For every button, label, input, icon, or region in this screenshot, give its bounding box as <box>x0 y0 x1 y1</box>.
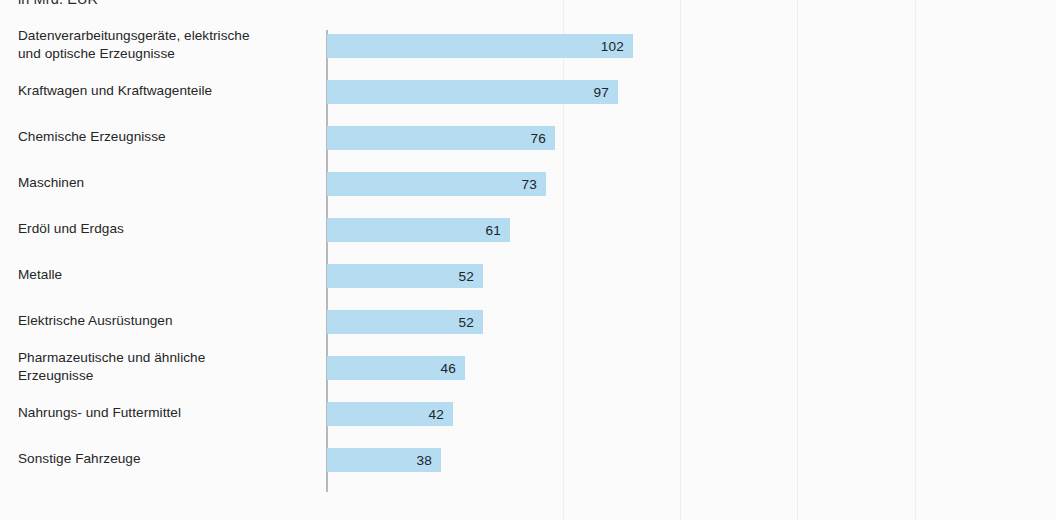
bar-row: Sonstige Fahrzeuge38 <box>0 444 1056 490</box>
bar-value-label: 97 <box>593 85 609 100</box>
category-label-line: Datenverarbeitungsgeräte, elektrische <box>18 27 318 45</box>
bar-value-label: 102 <box>601 39 624 54</box>
horizontal-bar-chart: Datenverarbeitungsgeräte, elektrischeund… <box>0 0 1056 520</box>
category-label-line: Sonstige Fahrzeuge <box>18 450 318 468</box>
bar-row: Nahrungs- und Futtermittel42 <box>0 398 1056 444</box>
category-label: Nahrungs- und Futtermittel <box>18 404 318 422</box>
category-label: Pharmazeutische und ähnlicheErzeugnisse <box>18 349 318 384</box>
bar[interactable]: 52 <box>327 310 483 334</box>
bar-value-label: 42 <box>428 407 444 422</box>
bar-value-label: 73 <box>521 177 537 192</box>
bar[interactable]: 97 <box>327 80 618 104</box>
category-label: Erdöl und Erdgas <box>18 220 318 238</box>
bar[interactable]: 76 <box>327 126 555 150</box>
category-label-line: Maschinen <box>18 174 318 192</box>
bar-row: Chemische Erzeugnisse76 <box>0 122 1056 168</box>
bar-value-label: 46 <box>440 361 456 376</box>
bar[interactable]: 73 <box>327 172 546 196</box>
bar-row: Kraftwagen und Kraftwagenteile97 <box>0 76 1056 122</box>
bar-value-label: 61 <box>485 223 501 238</box>
category-label: Datenverarbeitungsgeräte, elektrischeund… <box>18 27 318 62</box>
category-label-line: Nahrungs- und Futtermittel <box>18 404 318 422</box>
category-label-line: Erdöl und Erdgas <box>18 220 318 238</box>
bar-row: Maschinen73 <box>0 168 1056 214</box>
bar-row: Datenverarbeitungsgeräte, elektrischeund… <box>0 30 1056 76</box>
category-label: Kraftwagen und Kraftwagenteile <box>18 82 318 100</box>
bar-row: Erdöl und Erdgas61 <box>0 214 1056 260</box>
bar-value-label: 76 <box>530 131 546 146</box>
category-label-line: und optische Erzeugnisse <box>18 45 318 63</box>
bar[interactable]: 46 <box>327 356 465 380</box>
category-label-line: Elektrische Ausrüstungen <box>18 312 318 330</box>
category-label: Sonstige Fahrzeuge <box>18 450 318 468</box>
chart-subtitle: in Mrd. EUR <box>18 0 98 7</box>
bar[interactable]: 38 <box>327 448 441 472</box>
category-label-line: Chemische Erzeugnisse <box>18 128 318 146</box>
category-label: Elektrische Ausrüstungen <box>18 312 318 330</box>
category-label-line: Kraftwagen und Kraftwagenteile <box>18 82 318 100</box>
category-label-line: Pharmazeutische und ähnliche <box>18 349 318 367</box>
category-label-line: Metalle <box>18 266 318 284</box>
bar-value-label: 38 <box>416 453 432 468</box>
bar[interactable]: 61 <box>327 218 510 242</box>
bar-value-label: 52 <box>458 315 474 330</box>
category-label: Chemische Erzeugnisse <box>18 128 318 146</box>
category-label-line: Erzeugnisse <box>18 367 318 385</box>
bar[interactable]: 102 <box>327 34 633 58</box>
category-label: Maschinen <box>18 174 318 192</box>
category-label: Metalle <box>18 266 318 284</box>
bar[interactable]: 52 <box>327 264 483 288</box>
bar-value-label: 52 <box>458 269 474 284</box>
bar-row: Elektrische Ausrüstungen52 <box>0 306 1056 352</box>
bar[interactable]: 42 <box>327 402 453 426</box>
bar-row: Pharmazeutische und ähnlicheErzeugnisse4… <box>0 352 1056 398</box>
bar-row: Metalle52 <box>0 260 1056 306</box>
